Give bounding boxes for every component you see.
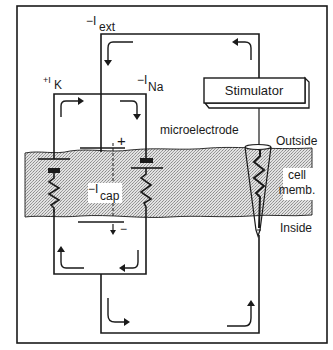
svg-text:−I: −I xyxy=(88,182,98,196)
cap-minus-sign: − xyxy=(120,222,127,236)
arrow-icon xyxy=(61,250,84,268)
na-battery-short-plate xyxy=(140,158,153,163)
stimulator-box: Stimulator xyxy=(204,78,309,108)
i-na-label: −I Na xyxy=(137,73,164,94)
svg-text:cap: cap xyxy=(100,189,120,203)
arrow-icon xyxy=(120,101,137,116)
arrow-head-icon xyxy=(247,300,255,306)
arrow-icon xyxy=(108,42,133,62)
svg-text:ext: ext xyxy=(99,20,116,34)
i-cap-label: −I cap xyxy=(88,182,122,203)
arrow-icon xyxy=(227,304,251,326)
cell-memb-label-line2: memb. xyxy=(279,183,316,197)
arrow-head-icon xyxy=(133,114,141,120)
cap-plus-sign: + xyxy=(117,132,126,149)
svg-text:K: K xyxy=(54,78,62,92)
arrow-head-icon xyxy=(232,38,238,46)
arrow-icon xyxy=(61,101,80,117)
svg-text:+I: +I xyxy=(43,75,51,85)
i-k-label: +I K xyxy=(43,75,62,92)
svg-text:−I: −I xyxy=(86,14,96,28)
arrow-icon xyxy=(123,250,138,268)
arrow-icon xyxy=(236,42,251,60)
cell-memb-label-line1: cell xyxy=(288,168,306,182)
stimulator-label: Stimulator xyxy=(225,83,284,98)
arrow-head-icon xyxy=(119,264,125,272)
arrow-icon xyxy=(108,298,126,322)
inside-label: Inside xyxy=(280,221,312,235)
outside-label: Outside xyxy=(276,134,318,148)
arrow-head-icon xyxy=(104,60,112,66)
arrow-head-icon xyxy=(110,230,116,235)
arrow-head-icon xyxy=(57,246,65,252)
arrow-head-icon xyxy=(78,97,84,105)
microelectrode-label: microelectrode xyxy=(160,123,239,137)
svg-text:Na: Na xyxy=(148,80,164,94)
arrow-head-icon xyxy=(124,318,130,326)
membrane-circuit-diagram: Stimulator −I ext +I K −I Na −I cap + − … xyxy=(0,0,333,350)
i-ext-label: −I ext xyxy=(86,14,116,34)
k-battery-short-plate xyxy=(48,168,60,173)
svg-text:−I: −I xyxy=(137,73,147,87)
